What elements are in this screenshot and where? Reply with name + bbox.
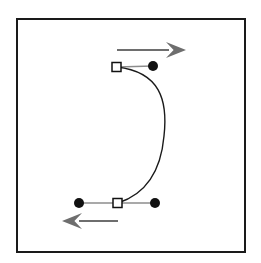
control-point-bottom-left[interactable] bbox=[74, 198, 84, 208]
control-point-bottom-right[interactable] bbox=[150, 198, 160, 208]
bezier-diagram-canvas bbox=[0, 0, 261, 263]
figure-root bbox=[0, 0, 261, 263]
handle-line-top bbox=[117, 66, 153, 67]
figure-background bbox=[0, 0, 261, 263]
control-point-top-right[interactable] bbox=[148, 61, 158, 71]
anchor-point-top[interactable] bbox=[112, 63, 121, 72]
anchor-point-bottom[interactable] bbox=[113, 199, 122, 208]
